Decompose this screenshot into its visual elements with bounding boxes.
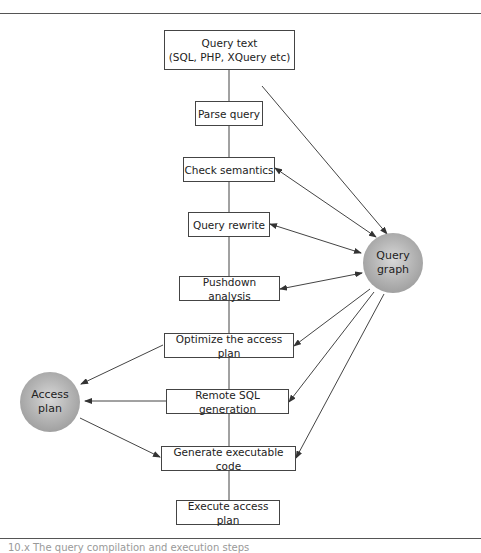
bottom-rule xyxy=(0,538,481,539)
box-query-text: Query text (SQL, PHP, XQuery etc) xyxy=(164,30,295,70)
box-query-text-line1: Query text xyxy=(202,36,258,50)
arrow-optimize-to-access xyxy=(81,345,163,384)
arrow-rewrite-graph xyxy=(270,224,361,253)
box-execute-access-plan: Execute access plan xyxy=(176,500,280,525)
box-generate-executable-code: Generate executable code xyxy=(161,446,296,471)
node-access-plan-line1: Access xyxy=(31,388,69,402)
node-access-plan: Access plan xyxy=(20,372,80,432)
box-query-text-line2: (SQL, PHP, XQuery etc) xyxy=(169,50,291,64)
node-access-plan-line2: plan xyxy=(38,402,62,416)
node-query-graph-line1: Query xyxy=(376,249,409,263)
box-optimize-access-plan: Optimize the access plan xyxy=(164,333,294,358)
node-query-graph-line2: graph xyxy=(377,263,409,277)
arrow-pushdown-graph xyxy=(280,273,362,289)
figure-caption: 10.x The query compilation and execution… xyxy=(8,542,249,553)
arrow-graph-optimize xyxy=(294,289,370,346)
arrow-access-to-generate xyxy=(80,418,160,457)
box-pushdown-analysis: Pushdown analysis xyxy=(179,276,280,301)
arrow-graph-remote xyxy=(289,292,374,402)
box-parse-query: Parse query xyxy=(195,101,263,126)
box-query-rewrite: Query rewrite xyxy=(188,212,270,237)
node-query-graph: Query graph xyxy=(363,233,423,293)
box-remote-sql-generation: Remote SQL generation xyxy=(166,389,289,414)
box-check-semantics: Check semantics xyxy=(183,157,275,182)
arrow-parse-to-graph xyxy=(262,86,387,234)
